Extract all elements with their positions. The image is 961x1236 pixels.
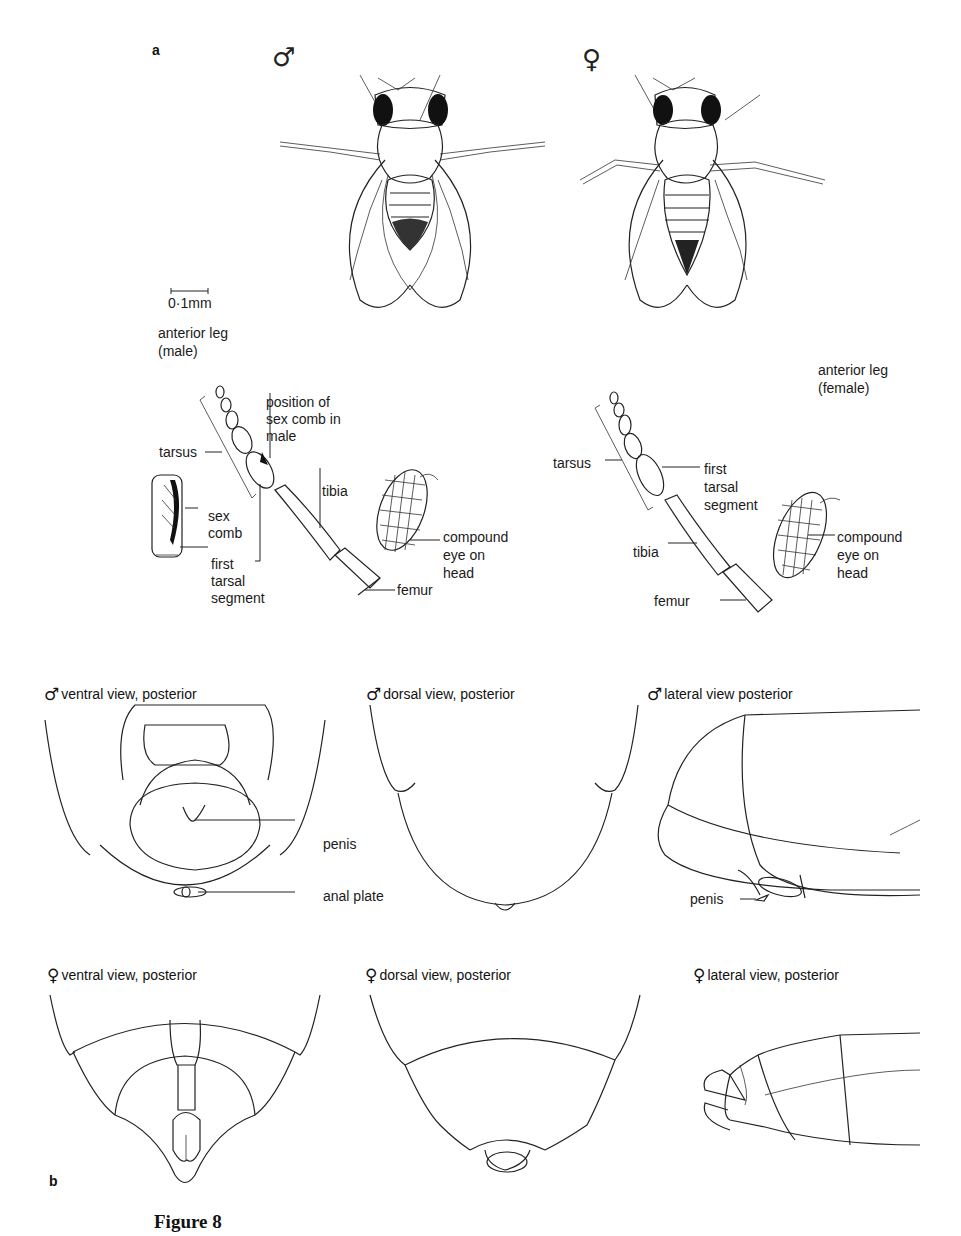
male-dorsal-view-illustration (360, 705, 650, 915)
female-leg-illustration (540, 350, 940, 620)
label-female-eye-3: head (837, 565, 868, 582)
label-male-ventral-penis: penis (323, 836, 356, 853)
male-leg-title-line2: (male) (158, 343, 198, 360)
female-ventral-view-illustration (45, 990, 325, 1190)
label-male-eye-2: eye on (443, 547, 485, 564)
label-male-tarsus: tarsus (159, 444, 197, 461)
male-symbol-icon: ♂ (366, 684, 381, 704)
label-male-eye-1: compound (443, 529, 508, 546)
label-female-first-tarsal-3: segment (704, 497, 758, 514)
label-female-femur: femur (654, 593, 690, 610)
label-female-eye-2: eye on (837, 547, 879, 564)
male-leg-title-line1: anterior leg (158, 325, 228, 342)
male-lateral-view-illustration (640, 705, 930, 905)
label-male-first-tarsal-3: segment (211, 590, 265, 607)
male-symbol-icon: ♂ (647, 684, 662, 704)
label-female-eye-1: compound (837, 529, 902, 546)
label-female-tibia: tibia (633, 544, 659, 561)
label-male-tibia: tibia (322, 483, 348, 500)
label-sex-comb-1: sex (208, 508, 230, 525)
label-female-first-tarsal-1: first (704, 461, 727, 478)
label-female-tarsus: tarsus (553, 455, 591, 472)
figure-caption: Figure 8 (154, 1211, 222, 1233)
female-ventral-title: ♀ ventral view, posterior (47, 965, 197, 985)
male-dorsal-title: ♂ dorsal view, posterior (366, 684, 515, 704)
female-dorsal-view-illustration-lines (365, 990, 645, 1190)
female-fly-illustration (575, 50, 835, 320)
label-female-first-tarsal-2: tarsal (704, 479, 738, 496)
label-male-first-tarsal-1: first (211, 556, 234, 573)
label-male-first-tarsal-2: tarsal (211, 573, 245, 590)
label-sex-comb-position-2: sex comb in (266, 411, 341, 428)
male-ventral-title: ♂ ventral view, posterior (44, 684, 197, 704)
female-symbol-icon: ♀ (47, 965, 59, 985)
scale-bar-line (170, 288, 210, 294)
male-ventral-view-illustration (40, 705, 330, 905)
female-lateral-view-illustration (700, 1015, 960, 1215)
male-symbol-icon: ♂ (44, 684, 59, 704)
female-symbol-icon: ♀ (365, 965, 377, 985)
male-fly-illustration (270, 50, 550, 320)
label-male-eye-3: head (443, 565, 474, 582)
male-leg-illustration (140, 380, 560, 620)
label-sex-comb-2: comb (208, 525, 242, 542)
label-sex-comb-position-3: male (266, 428, 296, 445)
male-lateral-title: ♂ lateral view posterior (647, 684, 793, 704)
female-symbol-icon: ♀ (693, 965, 705, 985)
panel-a-letter: a (152, 42, 160, 58)
female-lateral-title: ♀ lateral view, posterior (693, 965, 839, 985)
panel-b-letter: b (49, 1173, 58, 1189)
label-male-femur: femur (397, 582, 433, 599)
label-male-lateral-penis: penis (690, 891, 723, 908)
female-dorsal-title: ♀ dorsal view, posterior (365, 965, 511, 985)
scale-bar-label: 0·1mm (168, 295, 212, 312)
label-sex-comb-position-1: position of (266, 394, 330, 411)
